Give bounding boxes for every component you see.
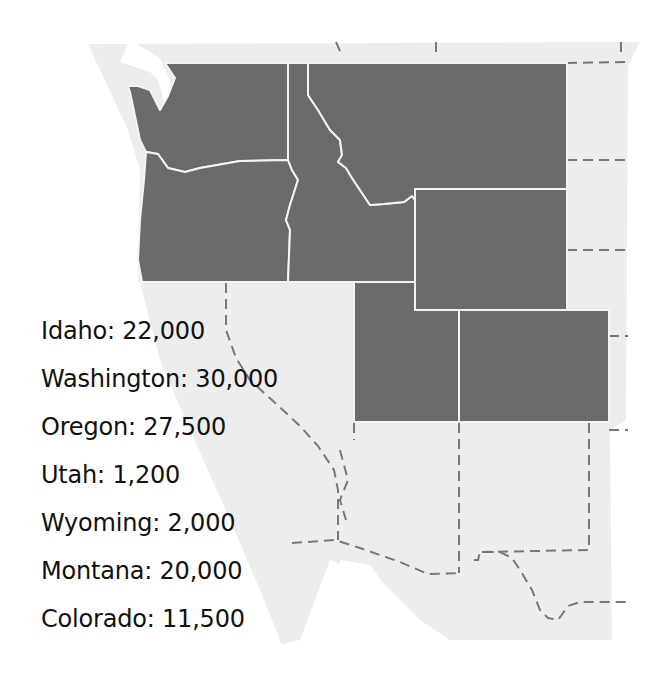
state-wyoming [415, 189, 567, 310]
legend-item-wyoming: Wyoming: 2,000 [41, 499, 278, 547]
legend-item-idaho: Idaho: 22,000 [41, 307, 278, 355]
state-colorado [459, 310, 609, 422]
legend-item-colorado: Colorado: 11,500 [41, 595, 278, 643]
state-oregon [138, 152, 298, 282]
legend-item-oregon: Oregon: 27,500 [41, 403, 278, 451]
legend-item-utah: Utah: 1,200 [41, 451, 278, 499]
legend-item-washington: Washington: 30,000 [41, 355, 278, 403]
legend: Idaho: 22,000 Washington: 30,000 Oregon:… [41, 307, 278, 643]
legend-item-montana: Montana: 20,000 [41, 547, 278, 595]
